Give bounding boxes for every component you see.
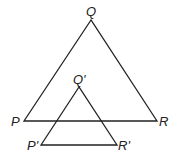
label-p-prime: P' [27,138,39,153]
label-r-prime: R' [118,138,130,153]
label-r: R [159,114,168,129]
label-q: Q [86,4,96,19]
triangle-pqr-prime [41,87,117,145]
label-q-prime: Q' [73,72,86,87]
triangle-diagram: Q P R Q' P' R' [0,0,176,159]
triangle-pqr [24,20,157,121]
label-p: P [11,114,20,129]
